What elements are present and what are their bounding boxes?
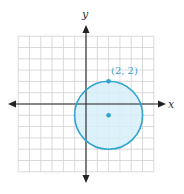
x-axis-left-arrow-icon (8, 101, 16, 108)
point-label: (2, 2) (111, 65, 138, 76)
point-on-circle (106, 79, 111, 84)
center-point (106, 113, 111, 118)
y-axis-up-arrow-icon (83, 25, 90, 33)
y-axis-label: y (81, 8, 89, 21)
x-axis-right-arrow-icon (158, 101, 166, 108)
coordinate-plane: (2, 2) x y (0, 0, 184, 194)
x-axis-label: x (168, 98, 175, 111)
y-axis-down-arrow-icon (83, 175, 90, 183)
